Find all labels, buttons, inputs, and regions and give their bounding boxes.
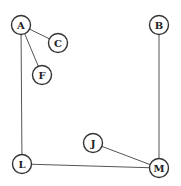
edge-a-c [30, 29, 50, 39]
node-a: A [12, 16, 31, 35]
node-label: F [38, 70, 45, 81]
node-label: C [54, 38, 62, 49]
node-label: L [18, 159, 25, 170]
node-b: B [150, 16, 169, 35]
node-label: A [16, 20, 25, 31]
node-f: F [33, 66, 52, 85]
edge-a-l [21, 34, 22, 154]
node-j: J [84, 134, 103, 153]
nodes-layer: ACFBJLM [12, 16, 169, 178]
graph-svg: ACFBJLM [0, 0, 181, 186]
node-l: L [13, 155, 32, 174]
edge-j-m [102, 146, 150, 164]
node-c: C [49, 34, 68, 53]
edge-a-f [25, 34, 39, 66]
edge-l-m [31, 164, 149, 167]
node-label: M [153, 163, 164, 174]
node-m: M [150, 159, 169, 178]
node-label: B [155, 20, 163, 31]
node-label: J [90, 138, 96, 149]
graph-diagram: ACFBJLM [0, 0, 181, 186]
